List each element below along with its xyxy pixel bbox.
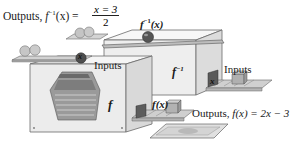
inverse-face-sup: −1: [176, 65, 184, 73]
inverse-machine-face-label: f−1: [172, 66, 184, 78]
inverse-outputs-label: Outputs, f−1(x) =: [3, 10, 79, 22]
forward-machine-face-label: f: [108, 98, 112, 111]
inverse-outputs-prefix: Outputs,: [3, 10, 45, 22]
forward-input-ball-label: x: [78, 53, 82, 61]
forward-value-arg: (x): [156, 98, 169, 110]
function-machine-diagram: Outputs, f−1(x) = x = 3 2 f−1(x) f−1 Inp…: [0, 0, 306, 152]
forward-output-value-label: f(x): [152, 99, 169, 110]
inverse-inputs-label: Inputs: [224, 64, 252, 75]
inverse-outputs-arg: (x) =: [56, 10, 79, 22]
forward-outputs-label: Outputs, f(x) = 2x − 3: [192, 108, 289, 119]
forward-inputs-label: Inputs: [94, 60, 122, 71]
inverse-output-tray: [66, 27, 108, 39]
forward-outputs-prefix: Outputs,: [192, 107, 232, 119]
inverse-value-arg: (x): [151, 18, 164, 30]
fraction-numerator: x = 3: [92, 3, 119, 16]
forward-machine-interior: [50, 72, 100, 120]
inverse-formula-fraction: x = 3 2: [92, 3, 119, 28]
fraction-denominator: 2: [92, 16, 119, 28]
inverse-outputs-sup: −1: [48, 9, 55, 17]
forward-output-tray: [150, 124, 228, 138]
forward-outputs-expr: f(x) = 2x − 3: [232, 107, 289, 119]
inverse-input-cube-label: x: [210, 77, 215, 86]
inverse-output-value-label: f−1(x): [140, 18, 163, 30]
inverse-value-sup: −1: [144, 17, 151, 24]
